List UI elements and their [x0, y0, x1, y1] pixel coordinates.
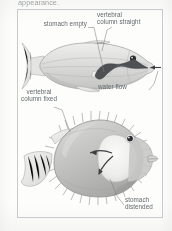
label-stomach-empty: stomach empty	[25, 20, 87, 27]
label-vertebral-column-straight: vertebral column straight	[97, 11, 159, 26]
figure-frame	[17, 9, 163, 218]
cut-off-body-text: appearance.	[18, 0, 59, 7]
label-water-flow: water flow	[98, 83, 146, 90]
figure-artwork	[18, 10, 162, 217]
scanned-page: appearance.	[0, 0, 172, 231]
label-stomach-distended: stomach distended	[125, 196, 171, 211]
label-vertebral-column-fixed: vertebral column fixed	[8, 88, 70, 103]
pufferfish-inflated-group	[21, 107, 158, 205]
